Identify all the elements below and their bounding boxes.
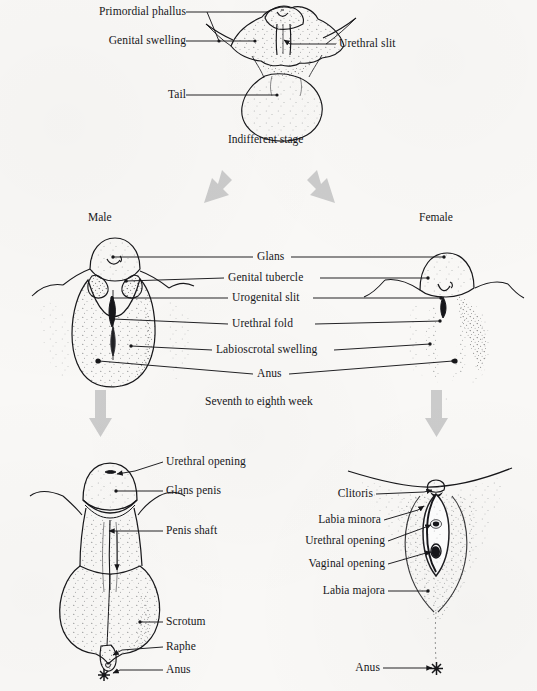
seventh-week-female-drawing xyxy=(364,253,524,408)
heading-male: Male xyxy=(88,212,112,224)
label-clitoris: Clitoris xyxy=(253,488,373,500)
label-anus-male: Anus xyxy=(166,664,191,676)
label-anus-middle: Anus xyxy=(257,368,282,380)
label-raphe: Raphe xyxy=(166,641,196,653)
label-scrotum: Scrotum xyxy=(166,616,206,628)
label-primordial-phallus: Primordial phallus xyxy=(70,6,186,18)
label-labia-minora: Labia minora xyxy=(253,514,381,526)
arrow-to-male xyxy=(204,170,232,203)
caption-seventh-to-eighth-week: Seventh to eighth week xyxy=(205,396,313,408)
figure-page: Primordial phallus Genital swelling Uret… xyxy=(0,0,537,691)
label-urethral-opening-female: Urethral opening xyxy=(253,535,385,547)
label-urethral-opening-male: Urethral opening xyxy=(166,456,246,468)
label-glans-penis: Glans penis xyxy=(166,485,221,497)
label-genital-swelling: Genital swelling xyxy=(70,35,186,47)
indifferent-stage-drawing xyxy=(206,6,356,141)
label-penis-shaft: Penis shaft xyxy=(166,525,217,537)
caption-indifferent-stage: Indifferent stage xyxy=(228,134,303,146)
seventh-week-male-drawing xyxy=(32,238,194,387)
label-genital-tubercle: Genital tubercle xyxy=(228,272,303,284)
label-labia-majora: Labia majora xyxy=(253,585,385,597)
anus-star-female xyxy=(430,662,443,675)
heading-female: Female xyxy=(419,212,453,224)
label-urogenital-slit: Urogenital slit xyxy=(232,292,300,304)
label-glans: Glans xyxy=(257,251,284,263)
label-anus-female: Anus xyxy=(300,662,380,674)
label-urethral-fold: Urethral fold xyxy=(232,318,293,330)
label-urethral-slit: Urethral slit xyxy=(339,38,396,50)
arrow-to-male-mature xyxy=(89,390,112,437)
stage-transition-arrows-upper xyxy=(204,170,335,203)
label-labioscrotal-swelling: Labioscrotal swelling xyxy=(216,344,317,356)
label-vaginal-opening: Vaginal opening xyxy=(253,558,385,570)
label-tail: Tail xyxy=(126,89,186,101)
arrow-to-female xyxy=(307,170,335,203)
male-mature-drawing xyxy=(30,463,185,681)
